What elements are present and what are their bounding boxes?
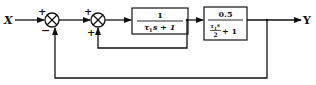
summing-junction-2 bbox=[91, 13, 105, 27]
transfer-block-g1: 1 τ 1 s + 1 bbox=[132, 8, 188, 34]
output-label: Y bbox=[302, 14, 311, 27]
sum2-top-sign: + bbox=[84, 6, 92, 17]
g1-denominator-sub: 1 bbox=[149, 27, 152, 33]
block-diagram: X + − + + 1 τ 1 s + 1 0.5 τ 1 s bbox=[0, 0, 316, 85]
input-label: X bbox=[3, 14, 13, 27]
sum2-bottom-sign: + bbox=[87, 27, 95, 38]
g2-inner-den: 2 bbox=[213, 31, 217, 38]
g1-denominator-rest: s + 1 bbox=[153, 22, 175, 32]
transfer-block-g2: 0.5 τ 1 s 2 + 1 bbox=[204, 7, 247, 40]
g2-denominator-rest: + 1 bbox=[222, 26, 237, 36]
g1-numerator: 1 bbox=[157, 10, 163, 20]
sum1-bottom-sign: − bbox=[41, 24, 50, 37]
g2-inner-num-s: s bbox=[217, 22, 220, 28]
sum1-top-sign: + bbox=[38, 6, 46, 17]
g2-numerator: 0.5 bbox=[219, 9, 233, 19]
